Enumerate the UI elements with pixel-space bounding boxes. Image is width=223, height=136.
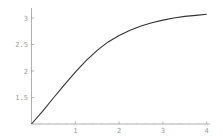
x-axis: 1234 [32,122,211,136]
x-tick-label: 4 [205,127,209,135]
data-line [32,14,207,124]
x-tick-label: 3 [161,127,165,135]
line-chart: 1.522.53 1234 [0,0,223,136]
x-tick-label: 2 [117,127,121,135]
y-tick-label: 3 [24,15,28,23]
y-tick-label: 2 [24,68,28,76]
y-axis: 1.522.53 [15,8,34,124]
y-tick-label: 2.5 [15,41,28,49]
x-tick-label: 1 [73,127,77,135]
y-tick-label: 1.5 [15,94,28,102]
